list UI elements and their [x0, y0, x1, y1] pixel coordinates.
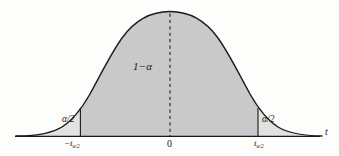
t-axis-label: t — [325, 127, 328, 137]
left-critical-value-label: −tα/2 — [64, 139, 80, 148]
confidence-region-label: 1−α — [133, 61, 152, 72]
left-critical-value-base: −t — [64, 138, 73, 148]
right-critical-value-label: tα/2 — [254, 139, 264, 148]
right-critical-value-subscript: α/2 — [257, 143, 264, 149]
left-tail-area-label: α/2 — [62, 115, 74, 125]
figure-container: 1−α α/2 α/2 0 t −tα/2 tα/2 — [0, 0, 339, 156]
left-critical-value-subscript: α/2 — [73, 143, 80, 149]
t-distribution-plot — [0, 0, 339, 156]
right-tail-area-label: α/2 — [262, 115, 274, 125]
center-tick-label: 0 — [167, 139, 172, 149]
